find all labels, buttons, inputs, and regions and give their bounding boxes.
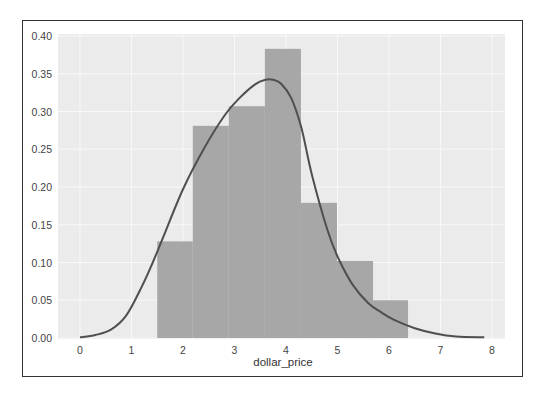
histogram-bar xyxy=(337,261,373,338)
y-tick-label: 0.35 xyxy=(32,68,53,80)
histogram-bar xyxy=(229,106,265,338)
histogram-bar xyxy=(265,49,301,338)
x-axis-ticks: 012345678 xyxy=(77,344,495,356)
y-tick-label: 0.40 xyxy=(32,30,53,42)
histogram-chart: 0.000.050.100.150.200.250.300.350.40 012… xyxy=(0,0,546,400)
y-tick-label: 0.05 xyxy=(32,294,53,306)
x-axis-label: dollar_price xyxy=(253,356,312,368)
x-tick-label: 3 xyxy=(232,344,238,356)
y-tick-label: 0.10 xyxy=(32,257,53,269)
histogram-bar xyxy=(301,203,337,338)
y-axis-ticks: 0.000.050.100.150.200.250.300.350.40 xyxy=(32,30,53,344)
histogram-bar xyxy=(157,241,193,338)
y-tick-label: 0.00 xyxy=(32,332,53,344)
x-tick-label: 2 xyxy=(180,344,186,356)
y-tick-label: 0.25 xyxy=(32,143,53,155)
y-tick-label: 0.15 xyxy=(32,219,53,231)
x-tick-label: 0 xyxy=(77,344,83,356)
y-tick-label: 0.20 xyxy=(32,181,53,193)
x-tick-label: 4 xyxy=(283,344,289,356)
x-tick-label: 8 xyxy=(489,344,495,356)
x-tick-label: 1 xyxy=(129,344,135,356)
y-tick-label: 0.30 xyxy=(32,106,53,118)
x-tick-label: 7 xyxy=(438,344,444,356)
x-tick-label: 5 xyxy=(335,344,341,356)
x-tick-label: 6 xyxy=(386,344,392,356)
